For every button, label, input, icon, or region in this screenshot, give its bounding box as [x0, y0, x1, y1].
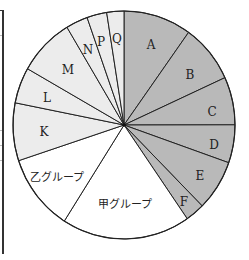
pie-center — [122, 123, 126, 127]
slice-label: P — [97, 35, 105, 49]
slice-label: A — [146, 38, 156, 52]
slice-label: L — [43, 91, 51, 105]
slice-label: M — [62, 63, 74, 77]
slice-label: 甲グループ — [98, 197, 152, 211]
slice-label: C — [207, 105, 216, 119]
slice-label: N — [83, 43, 94, 57]
slice-label: Q — [112, 32, 122, 46]
pie-chart: ABCDEF甲グループ乙グループKLMNPQ — [0, 0, 249, 260]
slice-label: 乙グループ — [30, 170, 84, 184]
slice-label: D — [209, 138, 219, 152]
slice-label: E — [196, 169, 205, 183]
slice-label: B — [186, 68, 195, 82]
slice-label: F — [180, 195, 188, 209]
slice-label: K — [40, 125, 50, 139]
